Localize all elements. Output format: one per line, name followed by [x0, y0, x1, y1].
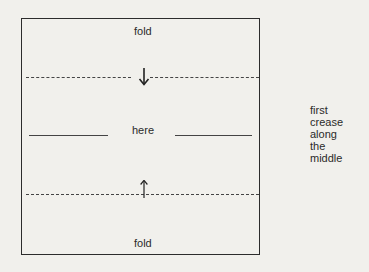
side-note: first crease along the middle	[310, 104, 343, 164]
paper-square	[21, 18, 260, 255]
side-note-line: middle	[310, 152, 343, 164]
middle-crease-label: here	[132, 124, 154, 136]
down-arrow-icon	[138, 68, 150, 86]
side-note-line: first	[310, 104, 343, 116]
top-fold-line-right	[150, 77, 259, 78]
side-note-line: crease	[310, 116, 343, 128]
top-fold-line-left	[26, 77, 131, 78]
bottom-fold-label: fold	[134, 237, 152, 249]
middle-crease-line-right	[175, 135, 252, 136]
side-note-line: along	[310, 128, 343, 140]
middle-crease-line-left	[29, 135, 108, 136]
top-fold-label: fold	[134, 25, 152, 37]
up-arrow-icon	[138, 180, 150, 198]
side-note-line: the	[310, 140, 343, 152]
